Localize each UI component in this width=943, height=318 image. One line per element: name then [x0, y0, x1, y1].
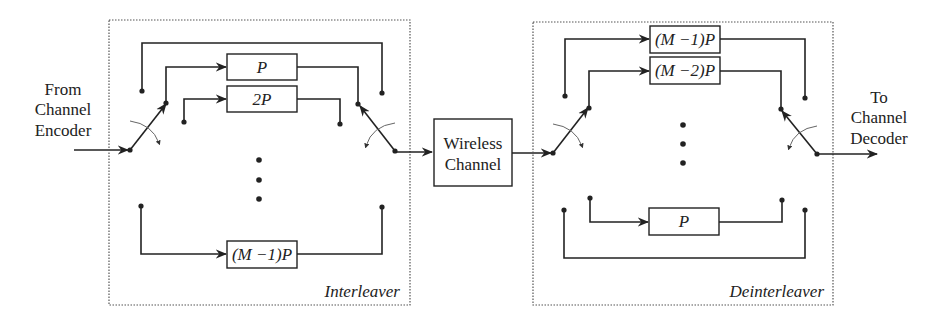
- input-label: From Channel Encoder: [35, 80, 92, 140]
- svg-text:(M −1)P: (M −1)P: [232, 245, 292, 264]
- channel-label-1: Wireless: [444, 134, 503, 153]
- svg-text:P: P: [678, 212, 689, 231]
- deinterleaver-output-switch: [782, 111, 820, 157]
- interleaver-branch-last: (M −1)P: [138, 203, 384, 268]
- deinterleaver-title: Deinterleaver: [729, 282, 825, 301]
- svg-text:Decoder: Decoder: [850, 129, 908, 148]
- deinterleaver-input-switch: [550, 108, 588, 156]
- svg-text:Channel: Channel: [851, 108, 908, 127]
- svg-text:(M −1)P: (M −1)P: [655, 30, 715, 49]
- interleaver-title: Interleaver: [323, 282, 400, 301]
- svg-text:Encoder: Encoder: [35, 121, 92, 140]
- channel-label-2: Channel: [445, 155, 502, 174]
- interleaver-input-switch: [127, 104, 166, 153]
- svg-text:2P: 2P: [253, 90, 272, 109]
- deinterleaver-branch-1: (M −2)P: [586, 57, 783, 112]
- deinterleaver-ellipsis: [680, 122, 686, 166]
- svg-text:P: P: [256, 58, 267, 77]
- svg-text:To: To: [870, 88, 888, 107]
- interleaver-branch-2: 2P: [181, 86, 342, 127]
- deinterleaver-branch-2: P: [587, 195, 784, 235]
- svg-text:(M −2)P: (M −2)P: [655, 61, 715, 80]
- output-label: To Channel Decoder: [850, 88, 908, 148]
- interleaver-output-switch: [360, 106, 398, 154]
- interleaver-ellipsis: [256, 157, 262, 202]
- svg-text:Channel: Channel: [35, 100, 92, 119]
- svg-text:From: From: [45, 80, 82, 99]
- interleaver-diagram: From Channel Encoder Interleaver P 2P: [0, 0, 943, 318]
- rotation-arrow-icon: [366, 123, 395, 146]
